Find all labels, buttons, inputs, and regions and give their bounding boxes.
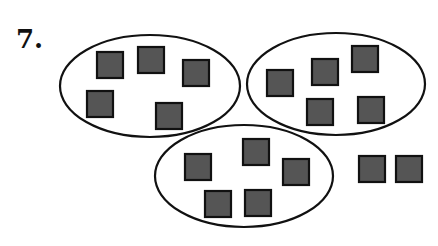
group-3-square: [283, 159, 309, 185]
group-1-square: [156, 103, 182, 129]
group-2-square: [307, 99, 333, 125]
group-3-square: [245, 190, 271, 216]
leftover-square: [359, 156, 385, 182]
group-3-square: [205, 191, 231, 217]
group-1-square: [138, 47, 164, 73]
group-3-square: [185, 154, 211, 180]
group-1-square: [183, 60, 209, 86]
leftover-square: [396, 156, 422, 182]
group-1-square: [87, 91, 113, 117]
group-2-square: [352, 46, 378, 72]
group-2-square: [358, 97, 384, 123]
group-2-square: [312, 59, 338, 85]
group-2-square: [267, 70, 293, 96]
group-3-square: [243, 139, 269, 165]
group-1-square: [97, 52, 123, 78]
grouping-figure: [0, 0, 438, 246]
